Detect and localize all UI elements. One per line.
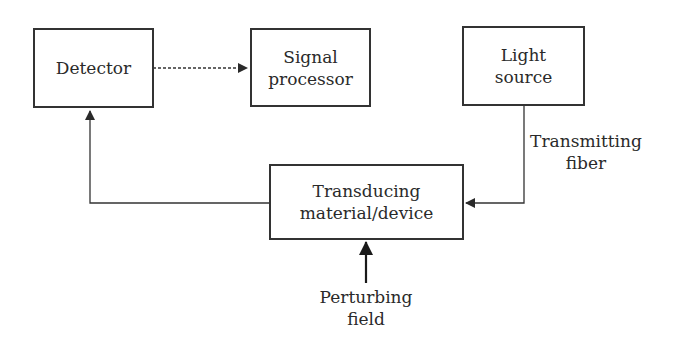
signal-processor-box: Signal processor: [250, 28, 371, 107]
transducer-label-line2: material/device: [300, 202, 434, 224]
light-source-box: Light source: [462, 26, 585, 106]
transmitting-fiber-label: Transmitting fiber: [530, 130, 642, 174]
arrow-transducer-to-detector: [90, 111, 269, 203]
fiber-arrow-source-to-transducer: [466, 105, 524, 203]
perturbing-field-line2: field: [310, 308, 422, 330]
signal-processor-label-line1: Signal: [283, 46, 338, 68]
detector-box: Detector: [33, 28, 154, 108]
light-source-label-line2: source: [495, 66, 553, 88]
detector-label: Detector: [56, 57, 131, 79]
transmitting-fiber-line1: Transmitting: [530, 130, 642, 152]
signal-processor-label-line2: processor: [268, 68, 353, 90]
perturbing-field-label: Perturbing field: [310, 286, 422, 330]
light-source-label-line1: Light: [501, 44, 546, 66]
transmitting-fiber-line2: fiber: [530, 152, 642, 174]
transducer-label-line1: Transducing: [313, 180, 421, 202]
perturbing-field-line1: Perturbing: [310, 286, 422, 308]
transducer-box: Transducing material/device: [269, 164, 464, 240]
